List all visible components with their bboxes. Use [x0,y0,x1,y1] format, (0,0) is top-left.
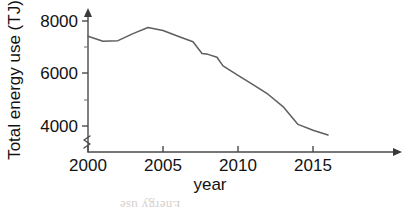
x-tick-label-2005: 2005 [144,156,182,175]
x-tick-label-2000: 2000 [69,156,107,175]
y-axis-arrow-icon [84,8,92,17]
x-tick-label-2010: 2010 [219,156,257,175]
y-tick-label-6000: 6000 [40,64,78,83]
x-tick-label-2015: 2015 [294,156,332,175]
y-tick-label-8000: 8000 [40,12,78,31]
axis-break-icon [84,136,90,148]
x-axis-title: year [193,175,226,194]
y-axis-title: Total energy use (TJ) [5,0,24,160]
y-tick-label-4000: 4000 [40,117,78,136]
page-bleed-through-text: Energy use [120,198,181,207]
x-axis-arrow-icon [393,148,402,156]
series-line-total-energy-use [88,28,328,135]
energy-use-line-chart: Total energy use (TJ) 8000 6000 4000 200… [0,0,407,207]
